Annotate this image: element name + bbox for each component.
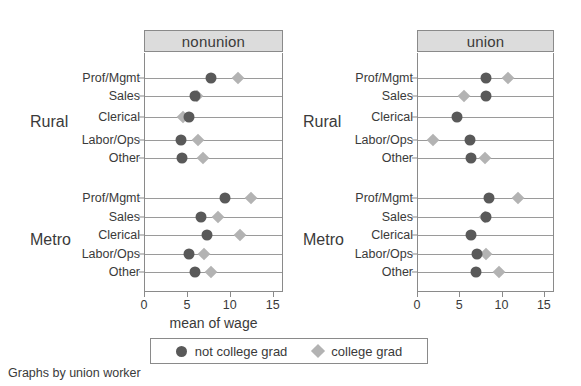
group-label-right-rural: Rural: [303, 113, 341, 131]
row-label-sales: Sales: [109, 89, 140, 103]
chart-caption: Graphs by union worker: [8, 366, 141, 380]
row-tick: [139, 272, 144, 273]
x-axis-tick-label: 10: [223, 298, 237, 312]
group-label-metro: Metro: [30, 231, 71, 249]
row-tick-right: [412, 78, 417, 79]
marker-not-college-grad-nonunion-metro-sales: [195, 212, 206, 223]
row-tick-right: [412, 158, 417, 159]
x-axis-tick: [144, 292, 145, 297]
x-axis-tick: [544, 292, 545, 297]
row-gridline: [145, 140, 282, 141]
legend-label: not college grad: [195, 344, 288, 359]
panel-header-nonunion: nonunion: [144, 30, 283, 52]
panel-title: union: [467, 33, 505, 50]
marker-not-college-grad-nonunion-metro-prof-mgmt: [219, 193, 230, 204]
row-gridline: [145, 117, 282, 118]
marker-not-college-grad-nonunion-metro-other: [190, 267, 201, 278]
row-label-sales: Sales: [109, 210, 140, 224]
group-label-right-metro: Metro: [303, 231, 344, 249]
row-tick: [139, 235, 144, 236]
x-axis-tick: [230, 292, 231, 297]
row-label-right-labor-ops: Labor/Ops: [355, 133, 413, 147]
chart-canvas: nonunionunionProf/MgmtProf/MgmtSalesSale…: [0, 0, 581, 386]
row-label-right-other: Other: [382, 265, 413, 279]
row-gridline: [418, 272, 553, 273]
x-axis-tick-label: 5: [456, 298, 463, 312]
row-label-right-labor-ops: Labor/Ops: [355, 247, 413, 261]
panel-header-union: union: [417, 30, 554, 52]
marker-not-college-grad-nonunion-rural-labor-ops: [175, 135, 186, 146]
x-axis-tick: [187, 292, 188, 297]
row-tick-right: [412, 198, 417, 199]
row-label-clerical: Clerical: [98, 228, 140, 242]
row-tick-right: [412, 217, 417, 218]
group-label-rural: Rural: [30, 113, 68, 131]
marker-not-college-grad-nonunion-rural-clerical: [184, 112, 195, 123]
x-axis-tick-label: 0: [414, 298, 421, 312]
row-label-prof-mgmt: Prof/Mgmt: [82, 71, 140, 85]
marker-not-college-grad-union-rural-other: [466, 153, 477, 164]
row-tick: [139, 140, 144, 141]
x-axis-tick: [459, 292, 460, 297]
row-tick: [139, 198, 144, 199]
row-tick: [139, 117, 144, 118]
x-axis-tick: [502, 292, 503, 297]
row-tick-right: [412, 96, 417, 97]
x-axis-tick-label: 5: [183, 298, 190, 312]
row-tick-right: [412, 140, 417, 141]
row-gridline: [145, 235, 282, 236]
marker-not-college-grad-nonunion-rural-other: [176, 153, 187, 164]
marker-not-college-grad-union-rural-sales: [481, 91, 492, 102]
marker-not-college-grad-union-metro-clerical: [466, 230, 477, 241]
marker-not-college-grad-union-metro-prof-mgmt: [483, 193, 494, 204]
row-label-labor-ops: Labor/Ops: [82, 247, 140, 261]
row-label-right-sales: Sales: [382, 210, 413, 224]
row-label-right-prof-mgmt: Prof/Mgmt: [355, 71, 413, 85]
x-axis-tick-label: 10: [495, 298, 509, 312]
x-axis-nonunion: [144, 291, 283, 292]
row-tick-right: [412, 235, 417, 236]
chart-legend: not college gradcollege grad: [150, 338, 428, 364]
row-label-prof-mgmt: Prof/Mgmt: [82, 191, 140, 205]
marker-not-college-grad-nonunion-metro-labor-ops: [184, 249, 195, 260]
row-tick: [139, 254, 144, 255]
plot-area-nonunion: [144, 53, 283, 291]
row-tick: [139, 158, 144, 159]
row-gridline: [145, 158, 282, 159]
row-tick: [139, 96, 144, 97]
marker-not-college-grad-union-metro-labor-ops: [472, 249, 483, 260]
legend-entry-circle: not college grad: [176, 344, 288, 359]
row-tick: [139, 78, 144, 79]
marker-not-college-grad-union-metro-sales: [481, 212, 492, 223]
legend-diamond-icon: [311, 344, 325, 358]
marker-not-college-grad-union-rural-clerical: [451, 112, 462, 123]
row-tick-right: [412, 117, 417, 118]
row-label-other: Other: [109, 265, 140, 279]
marker-not-college-grad-union-rural-labor-ops: [465, 135, 476, 146]
row-gridline: [145, 198, 282, 199]
panel-title: nonunion: [182, 33, 245, 50]
legend-entry-diamond: college grad: [313, 344, 402, 359]
row-label-other: Other: [109, 151, 140, 165]
row-label-right-prof-mgmt: Prof/Mgmt: [355, 191, 413, 205]
legend-circle-icon: [176, 346, 187, 357]
row-gridline: [418, 235, 553, 236]
row-gridline: [145, 254, 282, 255]
row-gridline: [418, 117, 553, 118]
row-tick-right: [412, 254, 417, 255]
x-axis-tick-label: 15: [537, 298, 551, 312]
row-label-right-other: Other: [382, 151, 413, 165]
row-gridline: [145, 96, 282, 97]
row-label-clerical: Clerical: [98, 110, 140, 124]
marker-not-college-grad-nonunion-rural-prof-mgmt: [205, 73, 216, 84]
x-axis-tick-label: 15: [266, 298, 280, 312]
marker-not-college-grad-union-rural-prof-mgmt: [480, 73, 491, 84]
row-label-right-clerical: Clerical: [371, 110, 413, 124]
row-label-right-clerical: Clerical: [371, 228, 413, 242]
row-label-right-sales: Sales: [382, 89, 413, 103]
marker-not-college-grad-nonunion-metro-clerical: [202, 230, 213, 241]
x-axis-union: [417, 291, 554, 292]
x-axis-tick: [273, 292, 274, 297]
legend-label: college grad: [331, 344, 402, 359]
row-label-labor-ops: Labor/Ops: [82, 133, 140, 147]
